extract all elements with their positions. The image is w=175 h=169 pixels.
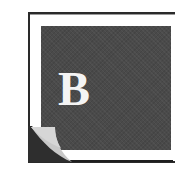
frame-inner-line (30, 14, 175, 15)
page-curl-icon (28, 124, 78, 164)
letter-b: B (58, 65, 90, 113)
